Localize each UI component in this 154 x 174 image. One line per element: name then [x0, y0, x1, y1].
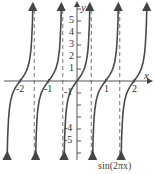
caption-formula: sin(2πx) — [98, 160, 131, 171]
y-tick-label: -4 — [64, 123, 72, 133]
x-tick-label: -1 — [44, 84, 52, 94]
x-tick-label: 2 — [132, 84, 137, 94]
x-tick-label: 1 — [104, 84, 109, 94]
y-tick-label: -5 — [64, 135, 72, 145]
y-tick-label: 4 — [69, 27, 74, 37]
x-tick-label: -2 — [16, 84, 24, 94]
y-tick-label: 1 — [69, 63, 74, 73]
y-tick-label: 5 — [69, 15, 74, 25]
y-tick-label: 3 — [69, 39, 74, 49]
x-axis-label: x — [144, 70, 149, 81]
y-tick-label: 2 — [69, 51, 74, 61]
y-axis-label: y — [81, 2, 86, 13]
y-tick-label: -1 — [64, 87, 72, 97]
